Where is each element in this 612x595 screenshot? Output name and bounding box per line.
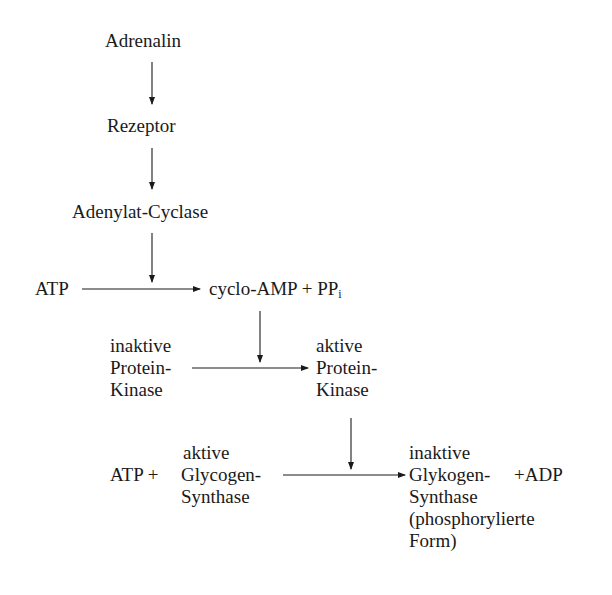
line: Synthase — [409, 486, 535, 508]
line: Glycogen- — [181, 464, 261, 486]
line: Protein- — [110, 357, 171, 379]
node-inactive-glykogen-synthase: inaktive Glykogen- Synthase (phosphoryli… — [409, 442, 535, 552]
line: inaktive — [409, 442, 535, 464]
line: aktive — [181, 442, 261, 464]
node-atp-2: ATP + — [110, 464, 159, 486]
line: inaktive — [110, 335, 171, 357]
node-cyclo-amp: cyclo-AMP + PPi — [209, 278, 342, 305]
node-adp: +ADP — [514, 464, 563, 486]
node-adrenalin: Adrenalin — [105, 30, 181, 52]
cyclo-amp-label: cyclo-AMP + PP — [209, 278, 338, 299]
line: Protein- — [316, 357, 377, 379]
node-active-glycogen-synthase: aktive Glycogen- Synthase — [181, 442, 261, 508]
line: Kinase — [110, 379, 171, 401]
line: (phosphorylierte — [409, 508, 535, 530]
line: Form) — [409, 530, 535, 552]
node-active-protein-kinase: aktive Protein- Kinase — [316, 335, 377, 401]
node-rezeptor: Rezeptor — [107, 115, 176, 137]
line: Kinase — [316, 379, 377, 401]
cyclo-amp-subscript: i — [338, 287, 341, 301]
node-inactive-protein-kinase: inaktive Protein- Kinase — [110, 335, 171, 401]
line: Synthase — [181, 486, 261, 508]
node-atp: ATP — [35, 278, 69, 300]
line: aktive — [316, 335, 377, 357]
node-adenylat-cyclase: Adenylat-Cyclase — [72, 201, 208, 223]
